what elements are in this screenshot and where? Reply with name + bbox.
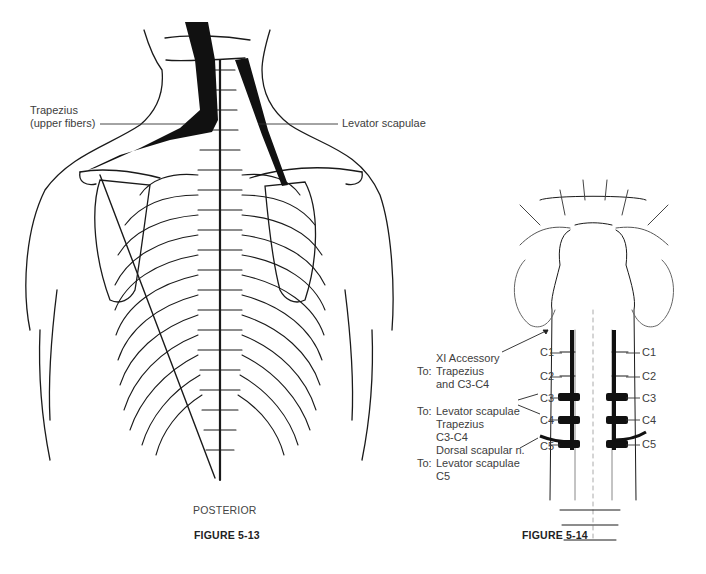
figure-5-14: XI Accessory To: Trapezius and C3-C4 To:… [400,0,706,574]
trapezius-muscle [88,22,218,170]
dorsal-scapular-label: Dorsal scapular n. [436,444,525,457]
levator-scapulae-muscle [235,58,288,186]
level-left-c5: C5 [540,440,554,452]
cervical-target-levator: Levator scapulae [436,405,520,418]
trapezius-label-line1: Trapezius [30,104,95,117]
accessory-to-label: To: [417,365,432,378]
accessory-nerve-label: XI Accessory [436,352,500,365]
cervical-to-label: To: [417,405,432,418]
level-left-c1: C1 [540,346,554,358]
level-right-c1: C1 [642,346,656,358]
trapezius-label-line2: (upper fibers) [30,117,95,130]
level-left-c4: C4 [540,414,554,426]
dorsal-target-c5: C5 [436,470,450,483]
posterior-torso-illustration [0,0,400,574]
level-right-c2: C2 [642,370,656,382]
figure-caption-5-13: FIGURE 5-13 [194,529,260,541]
cervical-nerve-illustration [400,0,706,574]
view-label: POSTERIOR [193,504,257,516]
level-left-c2: C2 [540,370,554,382]
level-right-c4: C4 [642,414,656,426]
accessory-target-trapezius: Trapezius [436,365,484,378]
level-right-c3: C3 [642,392,656,404]
level-right-c5: C5 [642,438,656,450]
dorsal-target-levator: Levator scapulae [436,457,520,470]
figure-caption-5-14: FIGURE 5-14 [522,529,588,541]
dorsal-to-label: To: [417,457,432,470]
cervical-target-trapezius: Trapezius [436,418,484,431]
level-left-c3: C3 [540,392,554,404]
cervical-target-c3c4: C3-C4 [436,431,468,444]
figure-5-13: Trapezius (upper fibers) Levator scapula… [0,0,400,574]
accessory-target-c3c4: and C3-C4 [436,378,489,391]
trapezius-label: Trapezius (upper fibers) [30,104,95,130]
